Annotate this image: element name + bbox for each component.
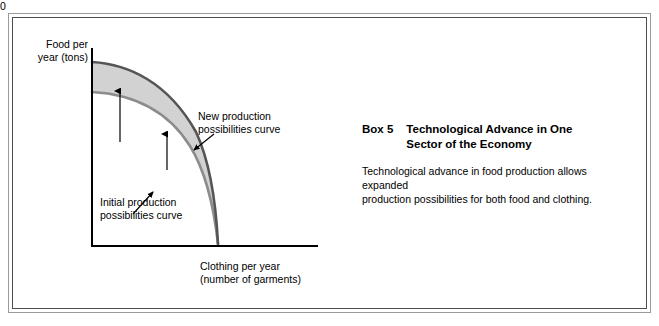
origin-label: 0 bbox=[0, 0, 659, 12]
figure-content: Food per year (tons) Clothing per year (… bbox=[0, 0, 659, 326]
box-number-label: Box 5 bbox=[362, 122, 393, 137]
box-body-text: Technological advance in food production… bbox=[362, 164, 620, 206]
initial-curve-annotation: Initial production possibilities curve bbox=[100, 196, 182, 222]
new-curve-annotation: New production possibilities curve bbox=[198, 110, 280, 136]
box-title: Technological Advance in One Sector of t… bbox=[406, 122, 630, 152]
x-axis-label: Clothing per year (number of garments) bbox=[200, 260, 301, 286]
figure-root: Food per year (tons) Clothing per year (… bbox=[0, 0, 659, 326]
y-axis-label: Food per year (tons) bbox=[28, 38, 88, 64]
box-caption: Box 5 Technological Advance in One Secto… bbox=[362, 122, 630, 206]
box-heading: Box 5 Technological Advance in One Secto… bbox=[362, 122, 630, 152]
